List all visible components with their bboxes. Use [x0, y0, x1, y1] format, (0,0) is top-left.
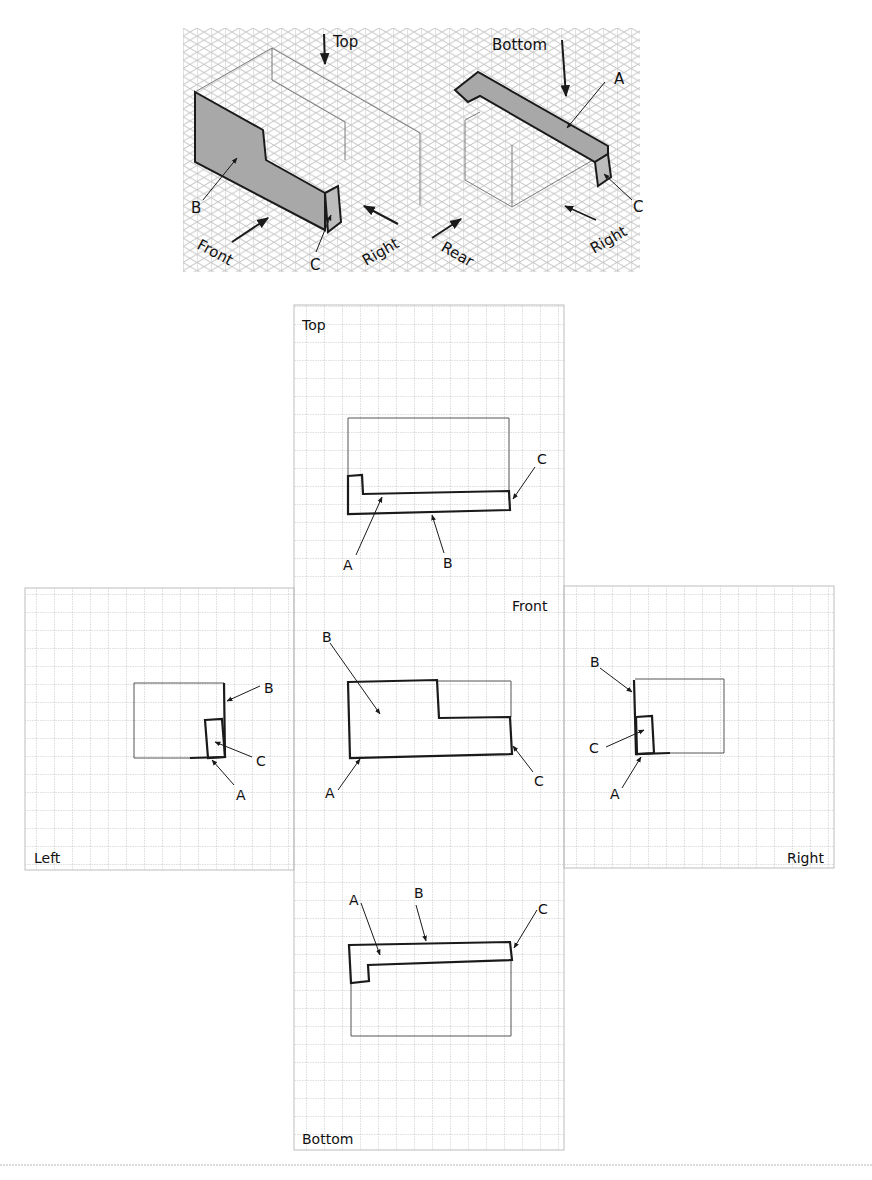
bottom-label-c: C: [538, 901, 548, 917]
label-a: A: [614, 70, 625, 88]
front-label-b: B: [322, 629, 332, 645]
label-c-right: C: [633, 198, 643, 216]
bottom-label-b: B: [414, 885, 424, 901]
label-top: Top: [332, 33, 358, 51]
top-label-a: A: [343, 557, 353, 573]
front-label-a: A: [325, 785, 335, 801]
orthographic-projection-figure: Top Bottom Front Right Rear Right B C A …: [0, 0, 872, 1180]
right-view-title: Right: [787, 850, 824, 866]
top-view-title: Top: [301, 317, 326, 333]
left-label-b: B: [264, 680, 274, 696]
bottom-view-title: Bottom: [302, 1131, 353, 1147]
label-b: B: [191, 199, 201, 217]
label-c: C: [310, 256, 320, 274]
right-label-a: A: [610, 786, 620, 802]
orthographic-grid: [25, 305, 834, 1150]
isometric-panel: Top Bottom Front Right Rear Right B C A …: [183, 28, 643, 274]
left-label-c: C: [256, 753, 266, 769]
left-label-a: A: [236, 787, 246, 803]
left-view-title: Left: [34, 850, 61, 866]
bottom-label-a: A: [349, 892, 359, 908]
right-label-b: B: [590, 654, 600, 670]
label-bottom: Bottom: [492, 36, 547, 54]
top-label-b: B: [443, 555, 453, 571]
top-label-c: C: [537, 451, 547, 467]
front-view-title: Front: [512, 598, 548, 614]
right-label-c: C: [589, 740, 599, 756]
front-label-c: C: [534, 773, 544, 789]
